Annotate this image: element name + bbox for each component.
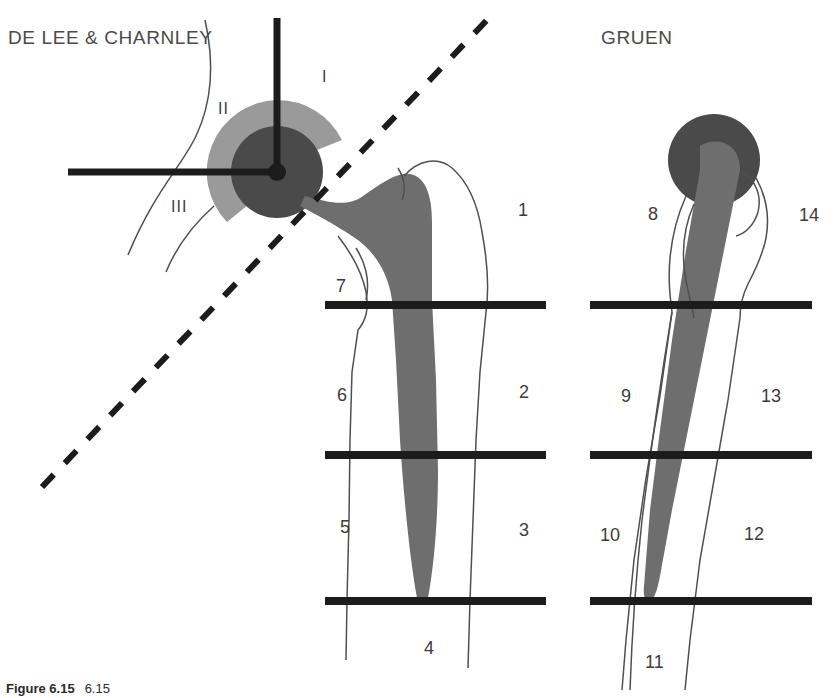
crosshair-center-dot (268, 163, 286, 181)
gruen-zone-13: 13 (761, 386, 781, 407)
acetabular-zone-II: II (218, 100, 229, 118)
figure-canvas: DE LEE & CHARNLEY GRUEN I II III 1 2 3 4… (0, 0, 838, 698)
title-de-lee-charnley: DE LEE & CHARNLEY (8, 27, 213, 49)
gruen-zone-6: 6 (337, 385, 347, 406)
gruen-zone-10: 10 (600, 525, 620, 546)
gruen-zone-12: 12 (744, 524, 764, 545)
figure-caption: Figure 6.156.15 (6, 681, 110, 698)
gruen-zone-4: 4 (424, 638, 434, 659)
gruen-zone-7: 7 (336, 276, 346, 297)
title-gruen: GRUEN (601, 27, 673, 49)
gruen-zone-11: 11 (645, 652, 664, 673)
femoral-stem-left (300, 174, 438, 601)
gruen-zone-3: 3 (519, 520, 529, 541)
gruen-zone-5: 5 (340, 517, 350, 538)
acetabular-zone-III: III (171, 198, 187, 216)
pelvis-outline-left (128, 20, 214, 272)
figure-caption-label: Figure 6.15 (6, 681, 75, 696)
gruen-zone-2: 2 (519, 382, 529, 403)
gruen-zone-8: 8 (648, 204, 658, 225)
hip-zone-diagram (0, 0, 838, 698)
figure-caption-text: 6.15 (85, 681, 110, 696)
gruen-zone-14: 14 (799, 205, 819, 226)
gruen-zone-1: 1 (518, 200, 528, 221)
acetabular-zone-I: I (322, 68, 327, 86)
gruen-zone-9: 9 (621, 386, 631, 407)
